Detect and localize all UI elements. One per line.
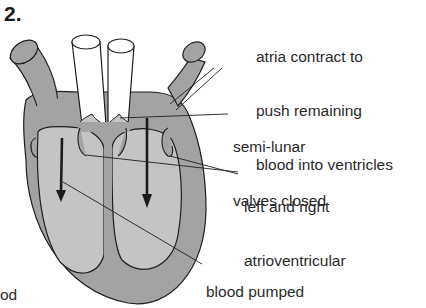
pulmonary-artery-opening (108, 39, 134, 53)
tube-base-tissue (78, 122, 130, 132)
label-blood-pumped: blood pumped from atria to ventricles (206, 247, 304, 308)
right-vein (168, 58, 205, 106)
aorta-opening (72, 35, 100, 49)
arrow-left-shaft (61, 138, 62, 192)
label-cutoff-left: od (0, 286, 17, 304)
label-line: atria contract to (256, 48, 393, 66)
label-line: blood pumped (206, 283, 304, 301)
step-number: 2. (4, 2, 22, 26)
label-line: semi-lunar (233, 138, 326, 156)
label-line: left and right (244, 198, 346, 216)
heart-diagram-figure: 2. atria contract to push remaining bloo… (0, 0, 426, 308)
septum (104, 130, 112, 280)
